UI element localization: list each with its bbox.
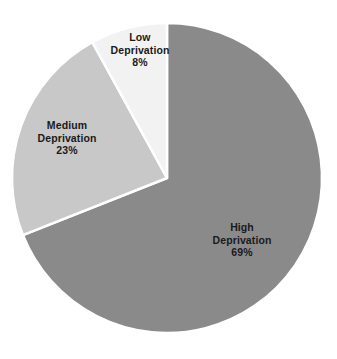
pie-slices	[12, 23, 322, 333]
pie-chart-canvas	[0, 0, 337, 359]
pie-chart: High Deprivation 69% Medium Deprivation …	[0, 0, 337, 359]
